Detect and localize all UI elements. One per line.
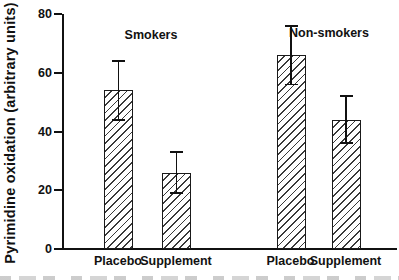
error-bar-line — [176, 152, 178, 193]
group-label: Non-smokers — [289, 26, 369, 40]
error-bar-line — [345, 96, 347, 143]
y-tick — [54, 13, 62, 15]
bar-chart-figure: Pyrimidine oxidation (arbitrary units) 0… — [0, 0, 399, 280]
error-bar-cap-top — [170, 151, 183, 153]
y-tick-label: 0 — [18, 242, 52, 256]
error-bar-line — [290, 26, 292, 85]
error-bar-cap-top — [112, 60, 125, 62]
error-bar-cap-bottom — [285, 84, 298, 86]
category-label: Supplement — [140, 254, 212, 268]
error-bar-line — [118, 61, 120, 120]
y-tick — [54, 72, 62, 74]
category-label: Placebo — [267, 254, 315, 268]
category-label: Placebo — [94, 254, 142, 268]
cropped-caption-text — [0, 276, 399, 280]
error-bar-cap-top — [285, 25, 298, 27]
y-tick-label: 60 — [18, 66, 52, 80]
error-bar-cap-bottom — [112, 119, 125, 121]
y-axis — [62, 14, 64, 250]
y-tick-label: 80 — [18, 7, 52, 21]
category-label: Supplement — [310, 254, 382, 268]
y-tick-label: 40 — [18, 125, 52, 139]
group-label: Smokers — [125, 28, 178, 42]
y-tick-label: 20 — [18, 183, 52, 197]
y-axis-title: Pyrimidine oxidation (arbitrary units) — [2, 2, 18, 263]
error-bar-cap-bottom — [340, 142, 353, 144]
error-bar-cap-bottom — [170, 192, 183, 194]
y-tick — [54, 248, 62, 250]
y-tick — [54, 189, 62, 191]
y-tick — [54, 131, 62, 133]
error-bar-cap-top — [340, 95, 353, 97]
